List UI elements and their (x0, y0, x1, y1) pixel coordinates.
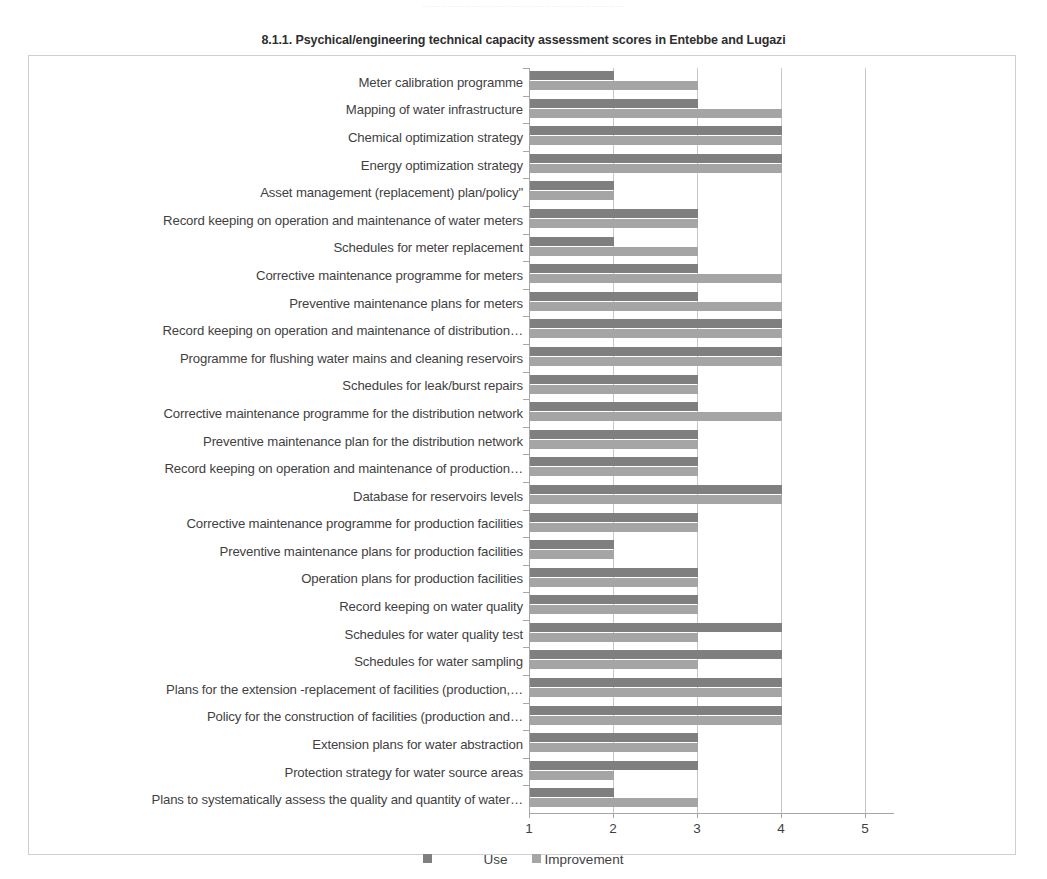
bar-improvement[interactable] (530, 798, 698, 807)
bar-row: Record keeping on operation and maintena… (29, 316, 1017, 344)
bar-use[interactable] (530, 650, 782, 659)
bar-improvement[interactable] (530, 688, 782, 697)
bar-use[interactable] (530, 568, 698, 577)
bar-row: Policy for the construction of facilitie… (29, 703, 1017, 731)
value-tick-5 (865, 813, 866, 818)
bar-use[interactable] (530, 595, 698, 604)
bar-row: Protection strategy for water source are… (29, 758, 1017, 786)
bar-row: Preventive maintenance plans for product… (29, 537, 1017, 565)
bar-row: Corrective maintenance programme for the… (29, 399, 1017, 427)
category-tick (523, 730, 529, 731)
bar-use[interactable] (530, 375, 698, 384)
bar-improvement[interactable] (530, 357, 782, 366)
bar-improvement[interactable] (530, 633, 698, 642)
bar-use[interactable] (530, 319, 782, 328)
bar-row: Plans for the extension -replacement of … (29, 675, 1017, 703)
bar-improvement[interactable] (530, 164, 782, 173)
bar-use[interactable] (530, 540, 614, 549)
category-label: Mapping of water infrastructure (346, 102, 523, 117)
bar-improvement[interactable] (530, 274, 782, 283)
bar-row: Energy optimization strategy (29, 151, 1017, 179)
bar-improvement[interactable] (530, 771, 614, 780)
bar-row: Corrective maintenance programme for met… (29, 261, 1017, 289)
bar-use[interactable] (530, 126, 782, 135)
bar-use[interactable] (530, 402, 698, 411)
value-tick-4 (781, 813, 782, 818)
chart-title: 8.1.1. Psychical/engineering technical c… (0, 33, 1047, 47)
value-tick-1 (529, 813, 530, 818)
bar-improvement[interactable] (530, 247, 698, 256)
bar-improvement[interactable] (530, 495, 782, 504)
bar-improvement[interactable] (530, 219, 698, 228)
bar-improvement[interactable] (530, 109, 782, 118)
category-tick (523, 454, 529, 455)
bar-use[interactable] (530, 513, 698, 522)
legend-item-use[interactable]: Use (423, 851, 508, 867)
category-tick (523, 123, 529, 124)
bar-improvement[interactable] (530, 523, 698, 532)
category-tick (523, 675, 529, 676)
bar-improvement[interactable] (530, 329, 782, 338)
bar-use[interactable] (530, 154, 782, 163)
legend-swatch-use-icon (423, 854, 432, 863)
chart-legend: UseImprovement (29, 851, 1017, 867)
bar-improvement[interactable] (530, 412, 782, 421)
bar-use[interactable] (530, 209, 698, 218)
category-label: Chemical optimization strategy (348, 129, 523, 144)
category-tick (523, 427, 529, 428)
bar-improvement[interactable] (530, 550, 614, 559)
category-label: Corrective maintenance programme for met… (256, 267, 523, 282)
category-label: Preventive maintenance plan for the dist… (203, 433, 523, 448)
bar-improvement[interactable] (530, 467, 698, 476)
bar-row: Database for reservoirs levels (29, 482, 1017, 510)
bar-improvement[interactable] (530, 191, 614, 200)
bar-improvement[interactable] (530, 385, 698, 394)
category-label: Asset management (replacement) plan/poli… (260, 185, 523, 200)
bar-improvement[interactable] (530, 660, 698, 669)
category-tick (523, 68, 529, 69)
bar-use[interactable] (530, 706, 782, 715)
bar-use[interactable] (530, 292, 698, 301)
bar-use[interactable] (530, 733, 698, 742)
bar-use[interactable] (530, 181, 614, 190)
bar-use[interactable] (530, 430, 698, 439)
category-label: Energy optimization strategy (361, 157, 523, 172)
bar-use[interactable] (530, 788, 614, 797)
bar-improvement[interactable] (530, 578, 698, 587)
bar-improvement[interactable] (530, 440, 698, 449)
plot-area: Meter calibration programmeMapping of wa… (29, 56, 1017, 856)
value-tick-3 (697, 813, 698, 818)
category-tick (523, 785, 529, 786)
bar-improvement[interactable] (530, 605, 698, 614)
bar-improvement[interactable] (530, 716, 782, 725)
category-label: Meter calibration programme (358, 74, 523, 89)
bar-improvement[interactable] (530, 136, 782, 145)
legend-item-improvement[interactable]: Improvement (532, 851, 624, 867)
category-tick (523, 510, 529, 511)
bar-use[interactable] (530, 347, 782, 356)
category-tick (523, 261, 529, 262)
bar-use[interactable] (530, 264, 698, 273)
bar-improvement[interactable] (530, 81, 698, 90)
category-label: Record keeping on operation and maintena… (163, 323, 524, 338)
bar-use[interactable] (530, 457, 698, 466)
bar-use[interactable] (530, 678, 782, 687)
category-label: Schedules for leak/burst repairs (342, 378, 523, 393)
category-label: Plans for the extension -replacement of … (166, 681, 523, 696)
category-label: Record keeping on water quality (339, 599, 523, 614)
bar-row: Plans to systematically assess the quali… (29, 785, 1017, 813)
bar-use[interactable] (530, 71, 614, 80)
category-tick (523, 178, 529, 179)
bar-use[interactable] (530, 485, 782, 494)
category-tick (523, 592, 529, 593)
bar-use[interactable] (530, 623, 782, 632)
bar-row: Record keeping on water quality (29, 592, 1017, 620)
category-tick (523, 344, 529, 345)
bar-use[interactable] (530, 761, 698, 770)
bar-use[interactable] (530, 99, 698, 108)
bar-improvement[interactable] (530, 743, 698, 752)
bar-improvement[interactable] (530, 302, 782, 311)
bar-use[interactable] (530, 237, 614, 246)
category-label: Corrective maintenance programme for the… (163, 405, 523, 420)
category-label: Preventive maintenance plans for product… (220, 543, 523, 558)
